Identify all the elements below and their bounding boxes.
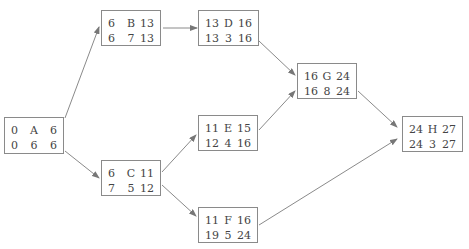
ls: 7 <box>108 182 122 195</box>
lf: 13 <box>140 32 154 45</box>
ls: 19 <box>205 229 219 242</box>
duration: 5 <box>221 229 235 242</box>
activity-name: C <box>124 167 138 180</box>
ls: 13 <box>205 32 219 45</box>
es: 11 <box>205 214 219 227</box>
edge-g-h <box>358 91 397 127</box>
edge-d-g <box>259 41 295 75</box>
es: 6 <box>108 17 122 30</box>
lf: 16 <box>237 137 251 150</box>
es: 6 <box>108 167 122 180</box>
ef: 16 <box>237 214 251 227</box>
node-c: 6C11 7512 <box>101 160 161 196</box>
duration: 5 <box>124 182 138 195</box>
ef: 6 <box>43 124 57 137</box>
ef: 16 <box>238 17 252 30</box>
node-e: 11E15 12416 <box>198 115 258 151</box>
node-g: 16G24 16824 <box>297 63 357 99</box>
activity-name: A <box>27 124 41 137</box>
duration: 3 <box>222 32 236 45</box>
node-h: 24H27 24327 <box>402 116 463 152</box>
ls: 6 <box>108 32 122 45</box>
node-f: 11F16 19524 <box>198 207 258 243</box>
es: 13 <box>205 17 219 30</box>
es: 11 <box>205 122 219 135</box>
activity-name: E <box>221 122 235 135</box>
node-b: 6B13 6713 <box>101 10 161 46</box>
node-d: 13D16 13316 <box>198 10 259 46</box>
ef: 27 <box>442 123 456 136</box>
ef: 11 <box>140 167 154 180</box>
edge-c-f <box>162 185 196 216</box>
lf: 24 <box>336 85 350 98</box>
node-a: 0A6 066 <box>4 117 64 154</box>
ef: 24 <box>336 70 350 83</box>
ef: 13 <box>140 17 154 30</box>
ls: 0 <box>11 139 25 152</box>
lf: 24 <box>237 229 251 242</box>
es: 16 <box>304 70 318 83</box>
ls: 24 <box>409 138 423 151</box>
lf: 6 <box>43 139 57 152</box>
activity-name: B <box>124 17 138 30</box>
edge-a-c <box>65 151 99 178</box>
activity-name: D <box>222 17 236 30</box>
activity-name: G <box>320 70 334 83</box>
ef: 15 <box>237 122 251 135</box>
es: 0 <box>11 124 25 137</box>
lf: 27 <box>442 138 456 151</box>
ls: 12 <box>205 137 219 150</box>
activity-name: F <box>221 214 235 227</box>
duration: 6 <box>27 139 41 152</box>
ls: 16 <box>304 85 318 98</box>
edge-c-e <box>162 135 196 172</box>
activity-name: H <box>426 123 440 136</box>
edge-a-b <box>65 27 99 118</box>
edge-e-g <box>259 91 295 130</box>
lf: 16 <box>238 32 252 45</box>
duration: 7 <box>124 32 138 45</box>
es: 24 <box>409 123 423 136</box>
duration: 4 <box>221 137 235 150</box>
lf: 12 <box>140 182 154 195</box>
edge-f-h <box>259 139 397 225</box>
duration: 8 <box>320 85 334 98</box>
duration: 3 <box>426 138 440 151</box>
